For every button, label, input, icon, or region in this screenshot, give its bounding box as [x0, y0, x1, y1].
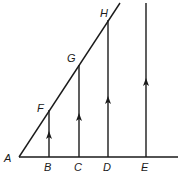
transversal-line: [19, 3, 120, 157]
label-c: C: [74, 161, 82, 173]
label-g: G: [67, 52, 76, 64]
label-f: F: [37, 102, 45, 114]
label-a: A: [3, 152, 11, 164]
geometry-diagram: A B C D E F G H: [0, 0, 185, 173]
label-b: B: [44, 161, 51, 173]
label-d: D: [103, 161, 111, 173]
label-h: H: [100, 7, 108, 19]
label-e: E: [141, 161, 149, 173]
